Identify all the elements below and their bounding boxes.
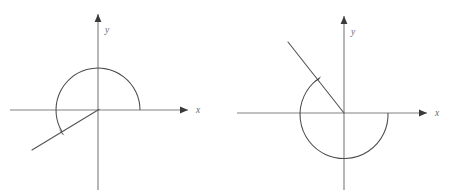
y-axis-arrowhead (341, 16, 348, 24)
initial-ray-stub (98, 109, 99, 110)
y-axis-arrowhead (95, 14, 102, 22)
x-axis-label: x (434, 108, 440, 118)
positive-angle-diagram: y x (229, 0, 458, 195)
figure-root: y x y x (0, 0, 458, 195)
x-axis-arrowhead (180, 107, 188, 114)
y-axis-label: y (350, 27, 356, 37)
terminal-ray (32, 110, 98, 150)
terminal-ray (288, 42, 344, 113)
negative-angle-diagram: y x (0, 0, 229, 195)
y-axis-label: y (104, 25, 110, 35)
x-axis-arrowhead (419, 110, 427, 117)
x-axis-label: x (195, 105, 201, 115)
